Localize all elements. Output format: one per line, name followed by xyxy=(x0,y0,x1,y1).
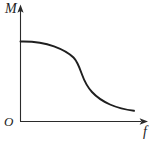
m-vs-f-curve xyxy=(21,41,135,110)
figure-container: M f O xyxy=(0,0,155,143)
y-axis-label: M xyxy=(5,2,17,16)
origin-label: O xyxy=(4,115,13,128)
x-axis-label: f xyxy=(143,125,147,139)
plot-canvas xyxy=(0,0,155,143)
